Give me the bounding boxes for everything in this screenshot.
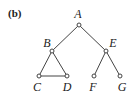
edge-e-g [106,51,120,76]
node-f-icon [92,74,96,78]
edge-a-b [52,25,79,51]
node-g-icon [118,74,122,78]
node-label-g: G [118,80,127,94]
node-label-b: B [43,36,51,50]
node-label-e: E [108,36,117,50]
graph-node-labels: ABECDFG [33,7,127,94]
edge-b-c [39,51,52,76]
node-label-f: F [88,80,97,94]
node-label-a: A [73,7,82,21]
node-label-c: C [33,80,42,94]
node-a-icon [77,23,81,27]
node-label-d: D [62,80,72,94]
node-e-icon [104,49,108,53]
node-d-icon [65,74,69,78]
graph-nodes [37,23,122,78]
edge-a-e [79,25,106,51]
tree-graph-diagram: (b) ABECDFG [0,0,134,99]
node-c-icon [37,74,41,78]
edge-e-f [94,51,106,76]
panel-label: (b) [8,7,22,20]
edge-b-d [52,51,67,76]
